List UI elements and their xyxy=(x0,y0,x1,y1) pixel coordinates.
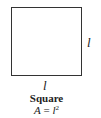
formula-lhs: A xyxy=(34,104,41,116)
area-formula: A = l2 xyxy=(0,104,93,116)
formula-equals: = xyxy=(41,104,53,116)
side-length-label-bottom: l xyxy=(43,79,47,92)
shape-title: Square xyxy=(0,92,93,104)
square-shape xyxy=(11,7,82,76)
side-length-label-right: l xyxy=(87,36,91,49)
formula-exponent: 2 xyxy=(56,104,60,112)
